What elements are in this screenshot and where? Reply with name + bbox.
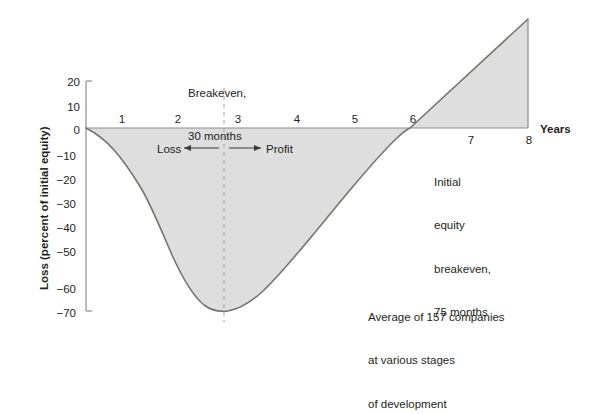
- initial-equity-breakeven-line-2: equity: [434, 218, 491, 232]
- loss-area-fill: [86, 128, 410, 311]
- y-tick-label-10: 10: [46, 100, 80, 114]
- sample-note-line-3: of development: [368, 397, 505, 411]
- y-tick-label-m70: −70: [42, 306, 76, 320]
- x-tick-label-2: 2: [168, 112, 188, 126]
- y-tick-label-m50: −50: [42, 245, 76, 259]
- x-tick-label-8: 8: [519, 133, 539, 147]
- sample-note-line-1: Average of 157 companies: [368, 310, 505, 324]
- initial-equity-breakeven-line-3: breakeven,: [434, 262, 491, 276]
- breakeven-annotation-line-2: 30 months: [188, 129, 246, 143]
- y-tick-label-m60: −60: [42, 282, 76, 296]
- sample-note-line-2: at various stages: [368, 353, 505, 367]
- y-tick-label-m30: −30: [42, 197, 76, 211]
- x-tick-label-6: 6: [403, 112, 423, 126]
- x-tick-label-5: 5: [345, 112, 365, 126]
- x-axis-title: Years: [540, 122, 571, 136]
- breakeven-annotation-line-1: Breakeven,: [188, 86, 246, 100]
- x-tick-label-4: 4: [287, 112, 307, 126]
- profit-region-label: Profit: [266, 142, 293, 156]
- y-tick-label-20: 20: [46, 75, 80, 89]
- y-tick-label-m20: −20: [42, 173, 76, 187]
- y-tick-label-m10: −10: [42, 149, 76, 163]
- breakeven-annotation: Breakeven, 30 months: [188, 57, 246, 173]
- x-tick-label-1: 1: [112, 112, 132, 126]
- sample-note-annotation: Average of 157 companies at various stag…: [368, 281, 505, 414]
- loss-region-label: Loss: [157, 142, 181, 156]
- y-tick-label-0: 0: [46, 123, 80, 137]
- x-tick-label-7: 7: [461, 133, 481, 147]
- initial-equity-breakeven-line-1: Initial: [434, 175, 491, 189]
- y-axis-ticks: [86, 81, 92, 311]
- y-tick-label-m40: −40: [42, 221, 76, 235]
